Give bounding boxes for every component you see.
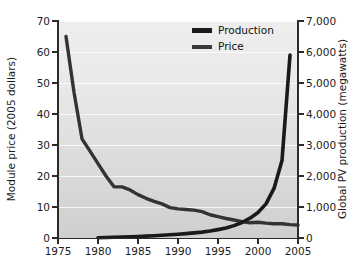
y-tick-left — [52, 144, 57, 145]
legend-item-production[interactable]: Production — [192, 24, 274, 37]
y-tick-right — [299, 113, 304, 114]
legend-swatch-production-icon — [192, 28, 212, 33]
y-tick-label-left: 0 — [43, 233, 50, 244]
y-tick-right — [299, 144, 304, 145]
legend-label-production: Production — [218, 25, 274, 36]
x-tick-label: 2000 — [245, 246, 272, 257]
y-tick-label-left: 40 — [37, 109, 50, 120]
y-tick-label-left: 60 — [37, 47, 50, 58]
x-tick-label: 2005 — [285, 246, 312, 257]
y-tick-right — [299, 51, 304, 52]
y-tick-right — [299, 206, 304, 207]
y-tick-label-left: 50 — [37, 78, 50, 89]
legend-swatch-price-icon — [192, 45, 212, 49]
y-tick-label-right: 5,000 — [306, 78, 336, 89]
y-tick-label-left: 10 — [37, 202, 50, 213]
x-tick — [217, 239, 218, 244]
y-tick-left — [52, 237, 57, 238]
x-tick — [137, 239, 138, 244]
y-tick-right — [299, 20, 304, 21]
x-tick-label: 1975 — [45, 246, 72, 257]
y-tick-label-right: 4,000 — [306, 109, 336, 120]
chart-legend: Production Price — [192, 24, 274, 53]
y-tick-label-right: 0 — [306, 233, 313, 244]
x-tick — [297, 239, 298, 244]
y-tick-right — [299, 82, 304, 83]
x-tick-label: 1995 — [205, 246, 232, 257]
x-tick — [257, 239, 258, 244]
y-tick-label-right: 1,000 — [306, 202, 336, 213]
x-tick-label: 1990 — [165, 246, 192, 257]
y-tick-left — [52, 20, 57, 21]
y-tick-label-right: 7,000 — [306, 16, 336, 27]
x-tick — [97, 239, 98, 244]
y-tick-label-left: 20 — [37, 171, 50, 182]
x-tick-label: 1985 — [125, 246, 152, 257]
y-tick-label-right: 2,000 — [306, 171, 336, 182]
y-tick-label-left: 30 — [37, 140, 50, 151]
y-axis-left-title: Module price (2005 dollars) — [6, 19, 17, 239]
x-tick-label: 1980 — [85, 246, 112, 257]
y-tick-label-right: 3,000 — [306, 140, 336, 151]
legend-item-price[interactable]: Price — [192, 40, 274, 53]
y-axis-right-title: Global PV production (megawatts) — [337, 19, 348, 239]
y-tick-right — [299, 237, 304, 238]
y-tick-left — [52, 206, 57, 207]
legend-label-price: Price — [218, 41, 244, 52]
x-tick — [177, 239, 178, 244]
y-tick-right — [299, 175, 304, 176]
y-tick-left — [52, 51, 57, 52]
y-tick-label-right: 6,000 — [306, 47, 336, 58]
y-axis-left-spine — [57, 20, 59, 239]
y-tick-label-left: 70 — [37, 16, 50, 27]
y-tick-left — [52, 113, 57, 114]
y-tick-left — [52, 82, 57, 83]
chart-figure: 01020304050607001,0002,0003,0004,0005,00… — [0, 0, 353, 275]
x-tick — [57, 239, 58, 244]
y-tick-left — [52, 175, 57, 176]
price-line — [66, 37, 298, 225]
data-series-layer — [58, 21, 298, 238]
